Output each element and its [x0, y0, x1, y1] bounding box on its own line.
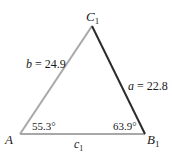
side-a-label: a = 22.8	[128, 79, 168, 93]
side-b	[20, 26, 92, 134]
angle-a-label: 55.3°	[32, 120, 56, 132]
angle-b-label: 63.9°	[113, 120, 137, 132]
vertex-c-label: C1	[86, 9, 99, 26]
vertex-a-label: A	[4, 132, 13, 147]
side-c-label: c1	[74, 137, 83, 153]
triangle-diagram: C1 A B1 b = 24.9 a = 22.8 c1 55.3° 63.9°	[0, 0, 172, 162]
side-b-label: b = 24.9	[26, 57, 66, 71]
vertex-b-label: B1	[147, 132, 159, 149]
